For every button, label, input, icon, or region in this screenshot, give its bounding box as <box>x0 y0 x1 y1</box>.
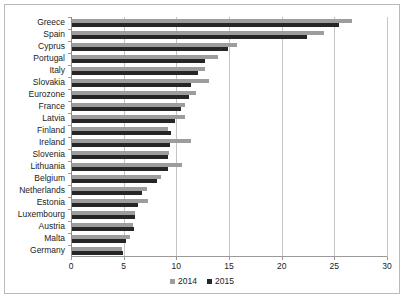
legend-item-2015: 2015 <box>207 277 234 286</box>
bar-finland-2015 <box>71 131 171 135</box>
bar-slovenia-2015 <box>71 155 168 159</box>
legend-swatch-icon <box>207 279 212 284</box>
legend-label: 2015 <box>215 277 234 286</box>
bar-slovakia-2015 <box>71 83 191 87</box>
y-axis-label-germany: Germany <box>30 246 65 255</box>
y-tickmark <box>68 173 71 174</box>
bar-group <box>71 149 387 161</box>
legend-label: 2014 <box>178 277 197 286</box>
legend-swatch-icon <box>170 279 175 284</box>
gridline-x-30 <box>387 17 388 257</box>
y-tickmark <box>68 77 71 78</box>
y-tickmark <box>68 197 71 198</box>
bar-group <box>71 17 387 29</box>
x-tick-label-15: 15 <box>224 261 233 271</box>
y-axis-label-malta: Malta <box>44 234 65 243</box>
y-tickmark <box>68 137 71 138</box>
x-tick-label-20: 20 <box>277 261 286 271</box>
bar-portugal-2015 <box>71 59 205 63</box>
y-axis-label-eurozone: Eurozone <box>29 90 65 99</box>
bar-group <box>71 161 387 173</box>
y-tickmark <box>68 125 71 126</box>
bar-france-2015 <box>71 107 181 111</box>
x-tickmark-30 <box>387 257 388 260</box>
y-axis-label-portugal: Portugal <box>33 54 65 63</box>
bar-malta-2015 <box>71 239 126 243</box>
y-axis-label-slovakia: Slovakia <box>33 78 65 87</box>
bar-luxembourg-2015 <box>71 215 135 219</box>
bar-latvia-2015 <box>71 119 175 123</box>
y-tickmark <box>68 113 71 114</box>
bar-group <box>71 53 387 65</box>
x-axis: 051015202530 <box>71 257 387 273</box>
y-axis-label-austria: Austria <box>39 222 65 231</box>
y-axis-label-slovenia: Slovenia <box>32 150 65 159</box>
y-axis-line <box>71 17 72 257</box>
y-tickmark <box>68 29 71 30</box>
y-axis-label-finland: Finland <box>37 126 65 135</box>
bar-group <box>71 197 387 209</box>
y-axis-label-ireland: Ireland <box>39 138 65 147</box>
bar-group <box>71 41 387 53</box>
y-tickmark <box>68 221 71 222</box>
chart-frame: GreeceSpainCyprusPortugalItalySlovakiaEu… <box>4 4 400 294</box>
y-tickmark <box>68 161 71 162</box>
y-axis-label-france: France <box>39 102 65 111</box>
x-tick-label-0: 0 <box>69 261 74 271</box>
y-axis-label-estonia: Estonia <box>37 198 65 207</box>
bar-group <box>71 101 387 113</box>
bar-group <box>71 113 387 125</box>
bar-greece-2015 <box>71 23 339 27</box>
y-tickmark <box>68 185 71 186</box>
bar-group <box>71 65 387 77</box>
y-axis-labels: GreeceSpainCyprusPortugalItalySlovakiaEu… <box>5 17 68 257</box>
x-tick-label-30: 30 <box>382 261 391 271</box>
bar-italy-2015 <box>71 71 198 75</box>
bar-group <box>71 137 387 149</box>
plot-area <box>71 17 387 257</box>
x-tickmark-5 <box>124 257 125 260</box>
bar-netherlands-2015 <box>71 191 142 195</box>
x-tick-label-10: 10 <box>172 261 181 271</box>
bar-group <box>71 125 387 137</box>
x-tick-label-5: 5 <box>121 261 126 271</box>
y-axis-label-italy: Italy <box>49 66 65 75</box>
bar-eurozone-2015 <box>71 95 189 99</box>
x-tickmark-25 <box>334 257 335 260</box>
bar-group <box>71 209 387 221</box>
y-axis-label-luxembourg: Luxembourg <box>18 210 65 219</box>
bar-group <box>71 89 387 101</box>
x-tickmark-20 <box>282 257 283 260</box>
bar-lithuania-2015 <box>71 167 168 171</box>
y-tickmark <box>68 53 71 54</box>
y-tickmark <box>68 65 71 66</box>
y-axis-label-latvia: Latvia <box>42 114 65 123</box>
y-tickmark <box>68 17 71 18</box>
chart-figure: GreeceSpainCyprusPortugalItalySlovakiaEu… <box>0 0 404 301</box>
x-tickmark-10 <box>176 257 177 260</box>
bar-group <box>71 29 387 41</box>
y-tickmark <box>68 101 71 102</box>
y-tickmark <box>68 233 71 234</box>
bar-ireland-2015 <box>71 143 170 147</box>
bar-germany-2015 <box>71 251 123 255</box>
bar-group <box>71 173 387 185</box>
bar-belgium-2015 <box>71 179 157 183</box>
bar-spain-2015 <box>71 35 307 39</box>
bar-estonia-2015 <box>71 203 138 207</box>
bar-rows <box>71 17 387 257</box>
bar-group <box>71 77 387 89</box>
y-axis-label-belgium: Belgium <box>34 174 65 183</box>
y-axis-label-greece: Greece <box>37 18 65 27</box>
x-tickmark-15 <box>229 257 230 260</box>
y-tickmark <box>68 89 71 90</box>
x-tickmark-0 <box>71 257 72 260</box>
y-tickmark <box>68 209 71 210</box>
legend-item-2014: 2014 <box>170 277 197 286</box>
x-tick-label-25: 25 <box>330 261 339 271</box>
y-tickmark <box>68 245 71 246</box>
bar-group <box>71 221 387 233</box>
y-axis-label-netherlands: Netherlands <box>19 186 65 195</box>
bar-cyprus-2015 <box>71 47 228 51</box>
bar-group <box>71 185 387 197</box>
